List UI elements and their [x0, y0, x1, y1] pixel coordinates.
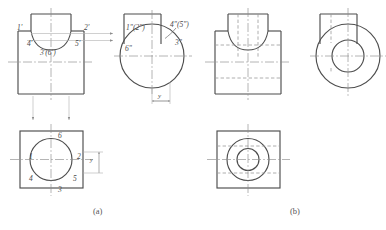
point-label-2-top: 2 — [77, 153, 81, 161]
point-label-6-top: 6 — [58, 132, 62, 140]
point-label-1-top: 1 — [29, 153, 33, 161]
b-top-view-centerlines — [207, 124, 290, 196]
point-label-4-top: 4 — [29, 175, 33, 183]
point-label-6-side: 6" — [125, 45, 132, 53]
point-label-3-6-front: 3'(6') — [40, 49, 56, 57]
point-label-1-2-side: 1"(2") — [126, 24, 145, 32]
point-label-4-5-side: 4"(5") — [170, 21, 189, 29]
point-label-5-top: 5 — [73, 175, 77, 183]
point-label-5-front: 5' — [75, 40, 80, 48]
b-front-view-centerlines — [205, 8, 291, 100]
point-label-1-front: 1' — [17, 24, 22, 32]
b-side-view-centerlines — [310, 8, 386, 96]
point-label-3-top: 3 — [58, 186, 62, 194]
y-dimension-label-top: y — [90, 157, 93, 163]
a-top-view-y-dimension — [83, 152, 103, 173]
point-label-3-side: 3" — [175, 39, 182, 47]
point-label-2-front: 2' — [84, 24, 89, 32]
drawing-sheet: 1' 2' 4' 5' 3'(6') 1"(2") 4"(5") 3" 6" y… — [0, 0, 386, 230]
caption-a: (a) — [93, 206, 102, 216]
caption-b: (b) — [290, 206, 300, 216]
point-label-4-front: 4' — [27, 40, 32, 48]
y-dimension-label-side: y — [158, 92, 161, 100]
engineering-drawing-canvas — [0, 0, 386, 230]
